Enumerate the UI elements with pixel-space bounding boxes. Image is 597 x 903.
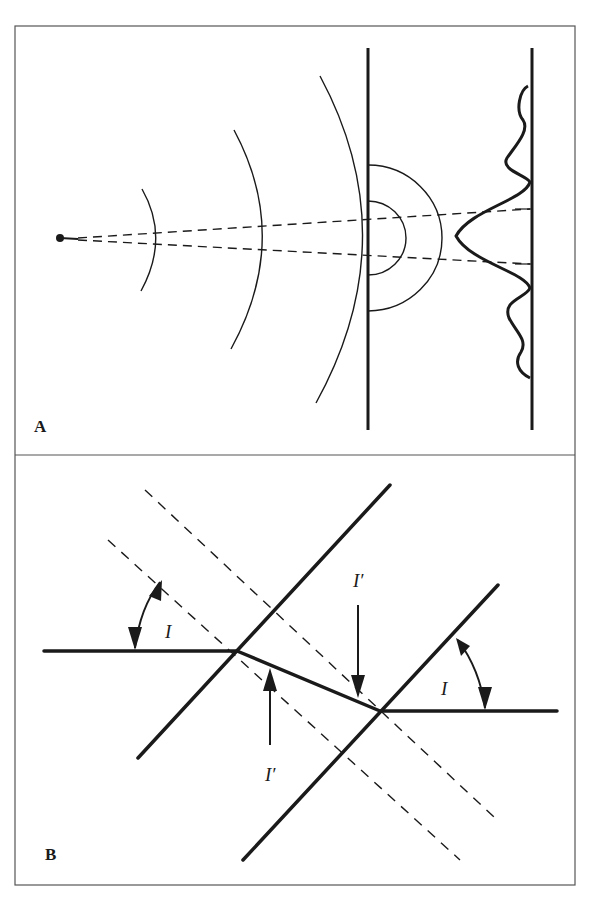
angle-label-I-left: I [164, 621, 173, 642]
boundary-left [138, 485, 390, 758]
wavefront-3 [316, 76, 363, 403]
panel-b-label: B [45, 845, 56, 864]
arrowhead-right-down [478, 687, 492, 710]
diffracted-wave-outer [368, 165, 442, 311]
arrowhead-left-down [128, 627, 142, 650]
panel-a: A [34, 48, 532, 436]
ray-upper [78, 209, 530, 238]
refracted-ray [44, 651, 557, 711]
angle-label-Iprime-top: I′ [352, 570, 364, 591]
boundary-right [243, 585, 498, 860]
panel-b: I I I′ I′ B [44, 485, 557, 864]
wavefront-1 [141, 189, 156, 291]
arrowhead-top-down [351, 675, 365, 698]
arrowhead-right-up [456, 638, 470, 656]
angle-label-I-right: I [440, 678, 449, 699]
diagram-canvas: A I I I′ I′ B [0, 0, 597, 903]
wavefront-2 [231, 130, 262, 349]
figure: A I I I′ I′ B [0, 0, 597, 903]
normal-dashed-1 [145, 490, 495, 818]
arrowhead-bottom-up [263, 668, 277, 691]
diffracted-wave-inner [368, 201, 406, 275]
angle-label-Iprime-bottom: I′ [264, 764, 276, 785]
source-stem [60, 238, 78, 239]
panel-a-label: A [34, 417, 47, 436]
intensity-pattern [456, 86, 530, 378]
